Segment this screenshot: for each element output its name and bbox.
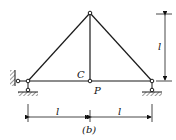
node-c-label: C [77,69,85,80]
vertical-dimension-label: l [158,41,161,52]
node-right [150,79,154,83]
wall-hatch [10,70,15,86]
dim-left-label: l [56,106,59,117]
dim-right-label: l [118,106,121,117]
ground-hatch-right [142,92,162,96]
figure-caption: (b) [82,124,96,135]
truss-diagram: l l l C P (b) [0,0,176,140]
node-left [26,79,30,83]
node-top [88,11,92,15]
wall-pin [16,79,20,83]
ground-hatch-left [18,92,38,96]
load-p-label: P [93,85,101,96]
ground-pin-right [150,88,154,92]
horizontal-dimension [28,104,152,122]
ground-pin-left [26,88,30,92]
truss-members [28,13,152,81]
member-right-diagonal [90,13,152,81]
node-c [88,79,92,83]
